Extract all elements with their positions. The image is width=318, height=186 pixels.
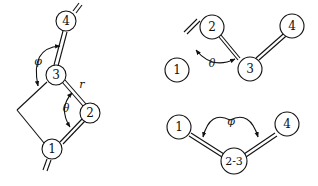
br-atom-4-label: 4 bbox=[283, 117, 291, 131]
br-atom-1-label: 1 bbox=[175, 120, 183, 134]
tr-theta-label: θ bbox=[209, 57, 216, 70]
left-atom-4-label: 4 bbox=[62, 14, 70, 28]
tr-atom-3-label: 3 bbox=[246, 62, 254, 76]
left-theta-label: θ bbox=[63, 102, 70, 115]
left-atom-3-label: 3 bbox=[52, 68, 60, 82]
left-atom-2-label: 2 bbox=[86, 106, 94, 120]
diagram-canvas: 4 3 2 1 φ θ r 1 2 3 4 θ 1 2-3 4 φ bbox=[0, 0, 318, 186]
tr-atom-2-label: 2 bbox=[208, 20, 216, 34]
tr-atom-4-label: 4 bbox=[288, 19, 296, 33]
left-atom-1-label: 1 bbox=[48, 142, 56, 156]
molecular-geometry-diagram: 4 3 2 1 φ θ r 1 2 3 4 θ 1 2-3 4 φ bbox=[0, 0, 318, 186]
left-r-label: r bbox=[79, 78, 85, 91]
br-phi-label: φ bbox=[227, 115, 235, 128]
left-phi-label: φ bbox=[34, 55, 42, 68]
br-atom-2-3-label: 2-3 bbox=[225, 155, 243, 168]
tr-atom-1-label: 1 bbox=[173, 63, 181, 77]
top-right-panel bbox=[165, 14, 304, 82]
left-panel bbox=[17, 3, 100, 171]
